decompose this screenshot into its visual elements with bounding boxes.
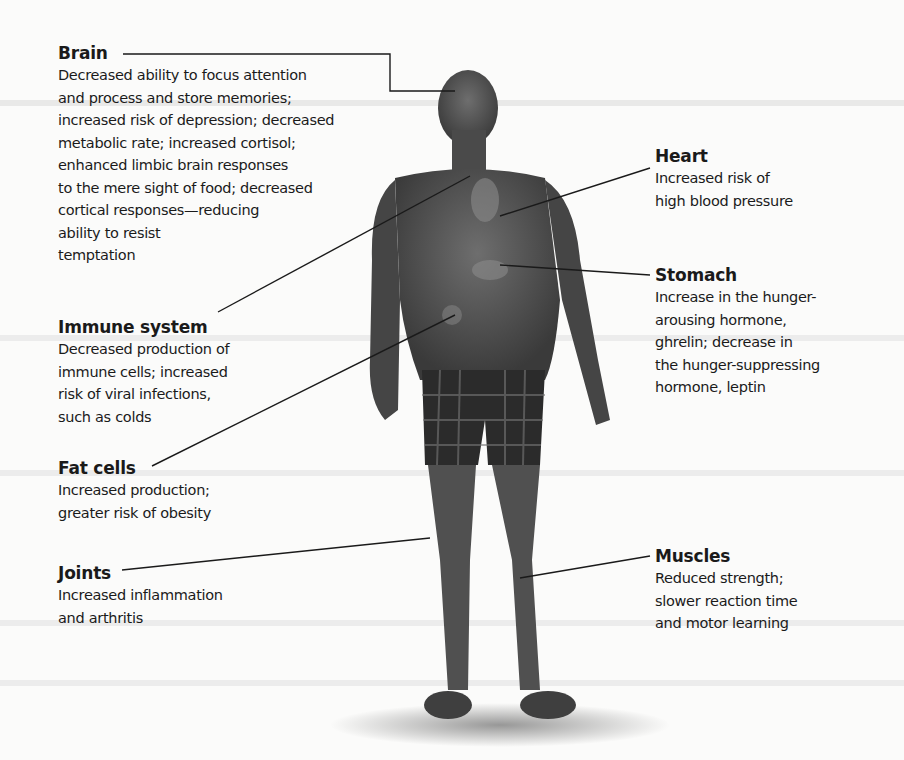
muscles-title: Muscles [655, 545, 797, 567]
stomach-title: Stomach [655, 264, 820, 286]
joints-title: Joints [58, 562, 223, 584]
right-leg [492, 465, 540, 690]
joints-description: Increased inflammation and arthritis [58, 584, 223, 629]
brain-title: Brain [58, 42, 334, 64]
brain-label: Brain Decreased ability to focus attenti… [58, 42, 334, 267]
muscles-label: Muscles Reduced strength; slower reactio… [655, 545, 797, 635]
immune-system-label: Immune system Decreased production of im… [58, 316, 229, 428]
stomach-label: Stomach Increase in the hunger- arousing… [655, 264, 820, 399]
heart-description: Increased risk of high blood pressure [655, 167, 793, 212]
fat-cells-label: Fat cells Increased production; greater … [58, 457, 211, 524]
immune-system-title: Immune system [58, 316, 229, 338]
muscles-leader-line [520, 556, 650, 578]
fat-cells-description: Increased production; greater risk of ob… [58, 479, 211, 524]
heart-title: Heart [655, 145, 793, 167]
stomach-description: Increase in the hunger- arousing hormone… [655, 286, 820, 399]
brain-description: Decreased ability to focus attention and… [58, 64, 334, 267]
heart-label: Heart Increased risk of high blood press… [655, 145, 793, 212]
fat-cells-title: Fat cells [58, 457, 211, 479]
left-leg [428, 465, 476, 690]
immune-system-description: Decreased production of immune cells; in… [58, 338, 229, 428]
joints-label: Joints Increased inflammation and arthri… [58, 562, 223, 629]
muscles-description: Reduced strength; slower reaction time a… [655, 567, 797, 635]
